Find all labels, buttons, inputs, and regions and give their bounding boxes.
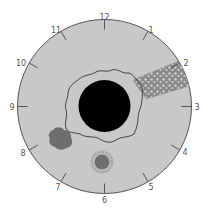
clock-label-10: 10: [16, 59, 26, 68]
clock-label-4: 4: [182, 148, 187, 157]
clock-label-1: 1: [148, 26, 153, 35]
fundus-diagram: 12 1 2 3 4 5 6 7 8 9 10 11: [0, 0, 210, 208]
clock-label-6: 6: [102, 196, 107, 205]
clock-label-12: 12: [99, 13, 109, 22]
clock-label-8: 8: [20, 149, 25, 158]
central-dark-disc: [79, 80, 131, 132]
clock-label-2: 2: [183, 59, 188, 68]
clock-label-9: 9: [9, 103, 14, 112]
clock-label-7: 7: [55, 183, 60, 192]
clock-label-3: 3: [194, 103, 199, 112]
clock-label-11: 11: [51, 26, 61, 35]
clock-label-5: 5: [148, 183, 153, 192]
